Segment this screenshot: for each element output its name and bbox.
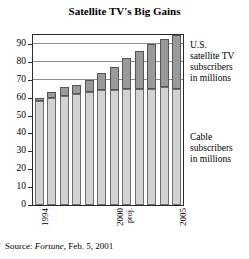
- bar-1999: [97, 73, 106, 205]
- bar-segment-cable: [160, 87, 169, 205]
- bar-segment-cable: [72, 94, 81, 205]
- bar-2004: [160, 39, 169, 205]
- x-tick-label-1994: 1994: [41, 208, 50, 226]
- bar-1995: [47, 92, 56, 205]
- bar-2001: [122, 58, 131, 205]
- bar-segment-cable: [147, 89, 156, 205]
- y-tick-label: 30: [17, 147, 27, 157]
- y-tick-label: 10: [17, 182, 27, 192]
- bar-segment-cable: [122, 89, 131, 205]
- y-tick-label: 50: [17, 111, 27, 121]
- annotation-satellite-subscribers: U.S.satellite TVsubscribersin millions: [190, 40, 248, 84]
- bar-segment-satellite: [47, 92, 56, 97]
- annotation-line: in millions: [190, 154, 248, 165]
- bar-2003: [147, 44, 156, 205]
- source-suffix: , Feb. 5, 2001: [64, 241, 114, 251]
- bar-segment-satellite: [122, 58, 131, 88]
- source-caption: Source: Fortune, Feb. 5, 2001: [5, 241, 113, 251]
- bar-segment-satellite: [110, 67, 119, 90]
- y-tick-label: 0: [21, 200, 26, 210]
- bar-2000: [110, 67, 119, 205]
- bar-segment-satellite: [85, 80, 94, 93]
- annotation-line: satellite TV: [190, 51, 248, 62]
- x-tick-label-2005: 2005: [179, 208, 188, 226]
- y-tick-label: 80: [17, 57, 27, 67]
- bar-2005: [172, 35, 181, 205]
- annotation-cable-subscribers: Cablesubscribersin millions: [190, 132, 248, 165]
- x-tick-annotation-proj: proj.: [125, 208, 134, 223]
- chart-figure: Satellite TV's Big Gains 010203040506070…: [0, 0, 249, 259]
- bar-segment-satellite: [72, 85, 81, 94]
- source-publication: Fortune: [35, 241, 64, 251]
- y-tick-label: 90: [17, 39, 27, 49]
- x-axis: 19942000proj.2005: [32, 206, 184, 240]
- annotation-line: in millions: [190, 73, 248, 84]
- bar-segment-satellite: [35, 98, 44, 102]
- source-prefix: Source:: [5, 241, 33, 251]
- bar-segment-satellite: [60, 87, 69, 96]
- bar-segment-cable: [85, 92, 94, 205]
- bar-2002: [135, 51, 144, 205]
- x-tick-label-2000: 2000: [116, 208, 125, 226]
- bar-1998: [85, 80, 94, 205]
- y-axis: 0102030405060708090: [0, 34, 30, 206]
- bar-segment-cable: [35, 101, 44, 205]
- bar-segment-satellite: [172, 35, 181, 89]
- bar-series-group: [33, 35, 183, 205]
- plot-area: [32, 34, 184, 206]
- bar-1994: [35, 98, 44, 205]
- bar-segment-satellite: [147, 44, 156, 89]
- bar-segment-cable: [60, 96, 69, 205]
- bar-segment-cable: [110, 90, 119, 205]
- y-tick-label: 60: [17, 93, 27, 103]
- y-tick-label: 20: [17, 164, 27, 174]
- annotation-line: U.S.: [190, 40, 248, 51]
- annotation-line: subscribers: [190, 62, 248, 73]
- bar-segment-satellite: [97, 73, 106, 91]
- bar-1997: [72, 85, 81, 205]
- bar-segment-cable: [47, 98, 56, 205]
- bar-segment-satellite: [160, 39, 169, 87]
- annotation-line: subscribers: [190, 143, 248, 154]
- bar-1996: [60, 87, 69, 205]
- bar-segment-cable: [135, 89, 144, 205]
- annotation-line: Cable: [190, 132, 248, 143]
- bar-segment-cable: [172, 89, 181, 205]
- y-tick-label: 40: [17, 129, 27, 139]
- chart-title: Satellite TV's Big Gains: [0, 5, 249, 17]
- y-tick-label: 70: [17, 75, 27, 85]
- bar-segment-cable: [97, 90, 106, 205]
- bar-segment-satellite: [135, 51, 144, 89]
